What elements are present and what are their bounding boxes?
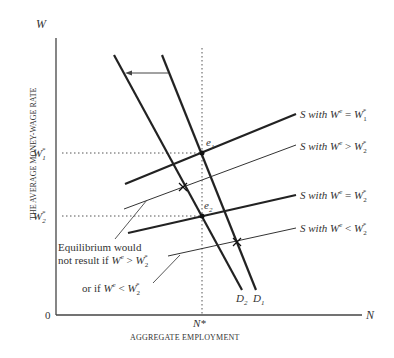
arrowhead-icon [125, 71, 132, 76]
diagram-canvas [0, 0, 394, 358]
supply-label-we-eq-w1: S with We = W1* [300, 108, 366, 123]
annotation-line-1: Equilibrium would [58, 242, 141, 253]
d1-label: D1 [253, 293, 264, 307]
w2-star-label: W2* [33, 210, 45, 225]
w1-star-label: W1* [33, 147, 45, 162]
demand-curve-d1 [162, 55, 256, 290]
equilibrium-point-e2 [200, 214, 205, 219]
equilibrium-point-e1 [200, 151, 205, 156]
e1-label: e1 [206, 137, 214, 151]
origin-label: 0 [45, 310, 51, 321]
supply-label-we-eq-w2: S with We = W2* [300, 189, 366, 204]
annotation-line-3: or if We < W2* [82, 282, 140, 297]
x-axis-title: AGGREGATE EMPLOYMENT [130, 334, 240, 342]
callout-leader-2 [153, 255, 180, 283]
n-star-label: N* [193, 318, 206, 329]
x-axis-symbol: N [366, 309, 374, 321]
y-axis-symbol: W [36, 18, 46, 30]
annotation-line-2: not result if We > W2* [58, 254, 148, 269]
labor-market-diagram: W N 0 THE AVERAGE MONEY-WAGE RATE AGGREG… [0, 0, 394, 358]
e2-label: e2 [204, 200, 212, 214]
d2-label: D2 [236, 293, 247, 307]
supply-label-we-gt-w2: S with We > W2* [300, 140, 366, 155]
supply-label-we-lt-w2: S with We < W2* [300, 222, 366, 237]
